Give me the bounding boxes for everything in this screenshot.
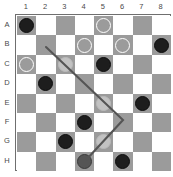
board-grid[interactable]: [15, 14, 171, 171]
row-label-D: D: [0, 73, 14, 93]
black-piece-g3[interactable]: [58, 134, 73, 149]
square-B2[interactable]: [36, 35, 55, 54]
square-A6[interactable]: [113, 16, 132, 35]
square-A7[interactable]: [133, 16, 152, 35]
square-F5[interactable]: [94, 113, 113, 132]
square-F7[interactable]: [133, 113, 152, 132]
column-label-7: 7: [132, 1, 152, 13]
square-G6[interactable]: [113, 132, 132, 151]
square-B7[interactable]: [133, 35, 152, 54]
square-A3[interactable]: [56, 16, 75, 35]
square-A2[interactable]: [36, 16, 55, 35]
square-D6[interactable]: [113, 74, 132, 93]
square-E6[interactable]: [113, 94, 132, 113]
square-D5[interactable]: [94, 74, 113, 93]
checkers-board-widget: 12345678 ABCDEFGH: [0, 0, 173, 177]
square-F8[interactable]: [152, 113, 171, 132]
row-label-A: A: [0, 15, 14, 35]
square-A8[interactable]: [152, 16, 171, 35]
ghost-piece-e5[interactable]: [96, 96, 111, 111]
column-label-5: 5: [93, 1, 113, 13]
square-B5[interactable]: [94, 35, 113, 54]
selected-piece-h4[interactable]: [77, 154, 92, 169]
column-label-8: 8: [151, 1, 171, 13]
square-H5[interactable]: [94, 152, 113, 171]
square-G7[interactable]: [133, 132, 152, 151]
square-E1[interactable]: [17, 94, 36, 113]
row-label-G: G: [0, 131, 14, 151]
square-E3[interactable]: [56, 94, 75, 113]
square-H8[interactable]: [152, 152, 171, 171]
square-G1[interactable]: [17, 132, 36, 151]
square-E8[interactable]: [152, 94, 171, 113]
row-label-H: H: [0, 151, 14, 171]
column-label-6: 6: [112, 1, 132, 13]
square-G2[interactable]: [36, 132, 55, 151]
square-A4[interactable]: [75, 16, 94, 35]
square-E2[interactable]: [36, 94, 55, 113]
square-C7[interactable]: [133, 55, 152, 74]
white-piece-c1[interactable]: [19, 57, 34, 72]
square-D4[interactable]: [75, 74, 94, 93]
column-label-2: 2: [35, 1, 55, 13]
row-label-B: B: [0, 34, 14, 54]
square-B3[interactable]: [56, 35, 75, 54]
white-piece-b4[interactable]: [77, 38, 92, 53]
black-piece-f4[interactable]: [77, 115, 92, 130]
square-F3[interactable]: [56, 113, 75, 132]
column-label-3: 3: [55, 1, 75, 13]
square-H7[interactable]: [133, 152, 152, 171]
black-piece-b8[interactable]: [154, 38, 169, 53]
square-C2[interactable]: [36, 55, 55, 74]
board-squares: [17, 16, 171, 171]
square-E4[interactable]: [75, 94, 94, 113]
square-G8[interactable]: [152, 132, 171, 151]
black-piece-e7[interactable]: [135, 96, 150, 111]
row-header-strip: ABCDEFGH: [0, 15, 15, 171]
square-D1[interactable]: [17, 74, 36, 93]
square-B1[interactable]: [17, 35, 36, 54]
square-D3[interactable]: [56, 74, 75, 93]
square-C4[interactable]: [75, 55, 94, 74]
row-label-C: C: [0, 54, 14, 74]
square-G4[interactable]: [75, 132, 94, 151]
square-H3[interactable]: [56, 152, 75, 171]
square-F6[interactable]: [113, 113, 132, 132]
row-label-F: F: [0, 112, 14, 132]
ghost-piece-c3[interactable]: [58, 57, 73, 72]
square-C8[interactable]: [152, 55, 171, 74]
column-label-1: 1: [16, 1, 36, 13]
row-label-E: E: [0, 93, 14, 113]
column-label-4: 4: [74, 1, 94, 13]
square-D8[interactable]: [152, 74, 171, 93]
square-H2[interactable]: [36, 152, 55, 171]
black-piece-c5[interactable]: [96, 57, 111, 72]
column-header-strip: 12345678: [16, 0, 172, 14]
square-F2[interactable]: [36, 113, 55, 132]
square-H1[interactable]: [17, 152, 36, 171]
square-F1[interactable]: [17, 113, 36, 132]
square-D7[interactable]: [133, 74, 152, 93]
white-piece-b6[interactable]: [115, 38, 130, 53]
square-C6[interactable]: [113, 55, 132, 74]
